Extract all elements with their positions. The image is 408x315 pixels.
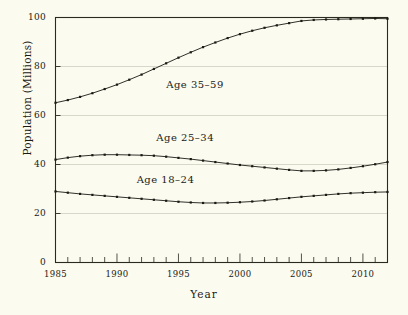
data-point bbox=[263, 27, 265, 29]
data-point bbox=[362, 18, 364, 20]
data-point bbox=[67, 192, 69, 194]
data-point bbox=[251, 30, 253, 32]
data-point bbox=[91, 154, 93, 156]
data-point bbox=[79, 155, 81, 157]
data-point bbox=[79, 193, 81, 195]
data-point bbox=[337, 18, 339, 20]
data-point bbox=[263, 166, 265, 168]
x-axis-title: Year bbox=[0, 288, 408, 300]
data-point bbox=[239, 164, 241, 166]
data-point bbox=[227, 202, 229, 204]
data-point bbox=[386, 18, 388, 20]
data-point bbox=[300, 170, 302, 172]
data-point bbox=[128, 154, 130, 156]
data-point bbox=[350, 192, 352, 194]
y-axis-title: Population (Millions) bbox=[21, 13, 33, 183]
y-tick-label: 0 bbox=[12, 257, 46, 267]
series-label-age-18-24: Age 18–24 bbox=[137, 174, 195, 185]
data-point bbox=[202, 159, 204, 161]
data-point bbox=[313, 170, 315, 172]
x-minor-ticks bbox=[56, 254, 388, 263]
data-point bbox=[190, 51, 192, 53]
data-point bbox=[190, 201, 192, 203]
data-point bbox=[153, 155, 155, 157]
data-point bbox=[263, 199, 265, 201]
data-point bbox=[104, 88, 106, 90]
data-point bbox=[214, 202, 216, 204]
data-point bbox=[239, 201, 241, 203]
series-label-age-35-59: Age 35–59 bbox=[166, 79, 224, 90]
data-point bbox=[91, 194, 93, 196]
data-point bbox=[128, 79, 130, 81]
x-tick-label: 2005 bbox=[281, 269, 321, 279]
data-point bbox=[227, 162, 229, 164]
data-point bbox=[202, 46, 204, 48]
data-point bbox=[214, 161, 216, 163]
data-point bbox=[350, 167, 352, 169]
x-tick-label: 1995 bbox=[158, 269, 198, 279]
data-point bbox=[300, 20, 302, 22]
data-point bbox=[104, 154, 106, 156]
data-point bbox=[374, 17, 376, 19]
data-point bbox=[362, 165, 364, 167]
data-point bbox=[313, 195, 315, 197]
data-point bbox=[140, 154, 142, 156]
data-point bbox=[153, 199, 155, 201]
data-point bbox=[276, 198, 278, 200]
chart-figure: 020406080100198519901995200020052010Year… bbox=[0, 0, 408, 315]
data-point bbox=[116, 84, 118, 86]
data-point bbox=[374, 163, 376, 165]
data-point bbox=[325, 18, 327, 20]
data-point bbox=[374, 191, 376, 193]
x-tick-label: 2010 bbox=[343, 269, 383, 279]
data-point bbox=[239, 33, 241, 35]
data-point bbox=[202, 202, 204, 204]
data-point bbox=[54, 159, 56, 161]
data-point bbox=[104, 195, 106, 197]
data-point bbox=[288, 22, 290, 24]
data-point bbox=[251, 165, 253, 167]
series-age-25-34 bbox=[54, 154, 388, 172]
data-point bbox=[288, 197, 290, 199]
data-point bbox=[116, 154, 118, 156]
data-point bbox=[276, 168, 278, 170]
data-point bbox=[128, 197, 130, 199]
data-point bbox=[140, 73, 142, 75]
data-point bbox=[227, 37, 229, 39]
series-label-age-25-34: Age 25–34 bbox=[156, 132, 214, 143]
data-point bbox=[67, 99, 69, 101]
data-point bbox=[362, 192, 364, 194]
data-point bbox=[79, 96, 81, 98]
data-point bbox=[313, 19, 315, 21]
data-point bbox=[165, 156, 167, 158]
data-point bbox=[190, 158, 192, 160]
data-point bbox=[214, 41, 216, 43]
data-point bbox=[325, 194, 327, 196]
data-point bbox=[116, 196, 118, 198]
data-point bbox=[325, 169, 327, 171]
y-tick-label: 20 bbox=[12, 208, 46, 218]
plot-frame bbox=[56, 18, 388, 263]
data-point bbox=[337, 168, 339, 170]
x-tick-label: 1990 bbox=[97, 269, 137, 279]
data-point bbox=[177, 157, 179, 159]
data-point bbox=[251, 200, 253, 202]
data-point bbox=[165, 62, 167, 64]
data-point bbox=[350, 18, 352, 20]
data-point bbox=[386, 161, 388, 163]
data-point bbox=[300, 196, 302, 198]
series-age-35-59 bbox=[54, 17, 388, 103]
data-point bbox=[91, 92, 93, 94]
series-age-18-24 bbox=[54, 190, 388, 204]
x-tick-label: 2000 bbox=[220, 269, 260, 279]
data-point bbox=[288, 169, 290, 171]
data-point bbox=[140, 198, 142, 200]
data-point bbox=[153, 68, 155, 70]
y-ticks bbox=[56, 18, 61, 263]
data-point bbox=[276, 24, 278, 26]
data-point bbox=[165, 200, 167, 202]
data-point bbox=[177, 57, 179, 59]
data-point bbox=[386, 191, 388, 193]
data-point bbox=[67, 157, 69, 159]
data-point bbox=[54, 102, 56, 104]
